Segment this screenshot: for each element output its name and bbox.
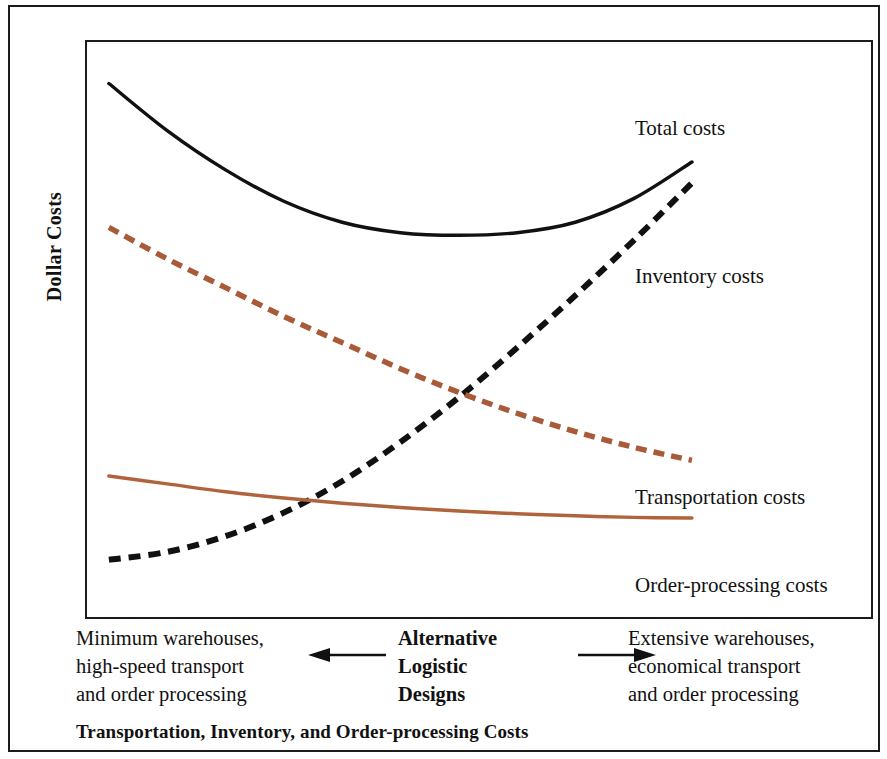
curve-layer [109, 84, 692, 560]
x-axis-right-description: Extensive warehouses, economical transpo… [628, 625, 887, 709]
right-desc-line-1: Extensive warehouses, [628, 625, 887, 653]
series-label-total-costs: Total costs [635, 118, 725, 139]
series-label-order-processing-costs: Order-processing costs [635, 575, 828, 596]
right-desc-line-2: economical transport [628, 653, 887, 681]
center-title-line-2: Logistic [398, 653, 568, 681]
x-axis-center-title: Alternative Logistic Designs [398, 625, 568, 709]
arrow-left-icon [308, 647, 386, 667]
figure-caption: Transportation, Inventory, and Order-pro… [76, 721, 529, 743]
left-desc-line-1: Minimum warehouses, [76, 625, 336, 653]
curve-total-costs [109, 84, 692, 236]
x-axis-descriptor: Minimum warehouses, high-speed transport… [68, 625, 878, 711]
x-axis-left-description: Minimum warehouses, high-speed transport… [76, 625, 336, 709]
left-desc-line-2: high-speed transport [76, 653, 336, 681]
left-desc-line-3: and order processing [76, 681, 336, 709]
series-label-transportation-costs: Transportation costs [635, 487, 805, 508]
cost-curves-svg [87, 42, 871, 617]
plot-area: Total costs Inventory costs Transportati… [85, 40, 873, 619]
center-title-line-1: Alternative [398, 625, 568, 653]
series-label-inventory-costs: Inventory costs [635, 266, 764, 287]
figure-outer-frame: Dollar Costs Total costs Inventory costs… [8, 5, 880, 752]
curve-transportation-costs [109, 227, 692, 460]
right-desc-line-3: and order processing [628, 681, 887, 709]
center-title-line-3: Designs [398, 681, 568, 709]
curve-order-processing-costs [109, 476, 692, 518]
y-axis-title: Dollar Costs [43, 127, 66, 367]
